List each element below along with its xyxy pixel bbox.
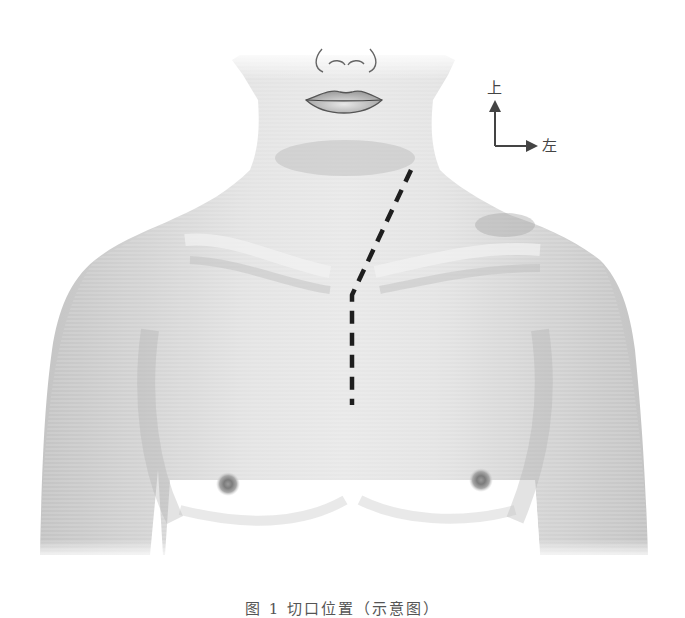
left-nipple [216,472,240,496]
up-direction-label: 上 [487,81,502,96]
arrow-up-icon [489,100,501,112]
left-direction-label: 左 [542,139,557,154]
direction-indicator [489,100,538,152]
arrow-right-icon [526,140,538,152]
right-nipple [469,468,493,492]
figure-caption: 图 1 切口位置（示意图） [0,597,685,618]
